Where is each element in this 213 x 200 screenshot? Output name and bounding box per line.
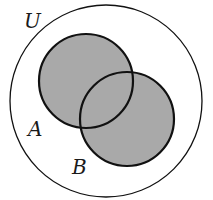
venn-diagram: U A B: [0, 0, 213, 200]
set-a-label: A: [26, 117, 42, 141]
set-b-label: B: [71, 155, 87, 179]
universe-label: U: [24, 9, 42, 33]
